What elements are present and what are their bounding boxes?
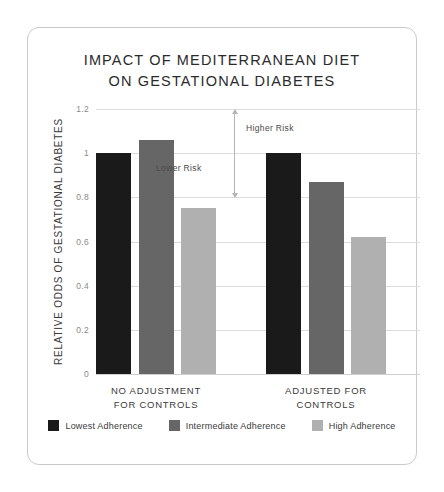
x-axis-label-group-2-line-2: CONTROLS bbox=[236, 398, 416, 412]
bar-group2-intermediate-adherence[interactable] bbox=[309, 182, 344, 374]
chart-card: IMPACT OF MEDITERRANEAN DIET ON GESTATIO… bbox=[27, 27, 417, 465]
bar-group1-lowest-adherence[interactable] bbox=[96, 153, 131, 374]
lower-risk-line bbox=[234, 153, 235, 193]
y-axis-title: RELATIVE ODDS OF GESTATIONAL DIABETES bbox=[50, 109, 66, 374]
chart-title-line-1: IMPACT OF MEDITERRANEAN DIET bbox=[28, 50, 416, 71]
y-tick-label-0.4: 0.4 bbox=[76, 281, 89, 291]
y-tick-label-1: 1 bbox=[84, 148, 89, 158]
gridline-1.2: 1.2 bbox=[96, 109, 420, 110]
bar-group1-intermediate-adherence[interactable] bbox=[139, 140, 174, 374]
legend-item-high-adherence[interactable]: High Adherence bbox=[312, 420, 396, 431]
x-axis-label-group-2-line-1: ADJUSTED FOR bbox=[236, 384, 416, 398]
bar-group2-lowest-adherence[interactable] bbox=[266, 153, 301, 374]
x-axis-label-group-1-line-1: NO ADJUSTMENT bbox=[66, 384, 246, 398]
bar-group1-high-adherence[interactable] bbox=[181, 208, 216, 374]
higher-risk-arrow-icon bbox=[232, 109, 238, 114]
legend-item-lowest-adherence[interactable]: Lowest Adherence bbox=[48, 420, 142, 431]
legend-label-high-adherence: High Adherence bbox=[329, 421, 396, 431]
bar-group2-high-adherence[interactable] bbox=[351, 237, 386, 374]
x-axis-label-group-2: ADJUSTED FOR CONTROLS bbox=[236, 384, 416, 411]
legend-label-intermediate-adherence: Intermediate Adherence bbox=[186, 421, 286, 431]
legend: Lowest Adherence Intermediate Adherence … bbox=[28, 420, 416, 431]
y-tick-label-0: 0 bbox=[84, 369, 89, 379]
y-tick-label-1.2: 1.2 bbox=[76, 104, 89, 114]
x-axis-label-group-1-line-2: FOR CONTROLS bbox=[66, 398, 246, 412]
y-tick-label-0.6: 0.6 bbox=[76, 237, 89, 247]
y-tick-label-0.8: 0.8 bbox=[76, 192, 89, 202]
x-axis-label-group-1: NO ADJUSTMENT FOR CONTROLS bbox=[66, 384, 246, 411]
legend-swatch-intermediate-adherence bbox=[169, 420, 180, 431]
higher-risk-line bbox=[234, 113, 235, 153]
legend-swatch-lowest-adherence bbox=[48, 420, 59, 431]
legend-swatch-high-adherence bbox=[312, 420, 323, 431]
higher-risk-label: Higher Risk bbox=[246, 123, 294, 133]
legend-item-intermediate-adherence[interactable]: Intermediate Adherence bbox=[169, 420, 286, 431]
gridline-0: 0 bbox=[96, 374, 420, 375]
lower-risk-label: Lower Risk bbox=[156, 163, 202, 173]
page-title: IMPACT OF MEDITERRANEAN DIET ON GESTATIO… bbox=[28, 50, 416, 92]
legend-label-lowest-adherence: Lowest Adherence bbox=[65, 421, 142, 431]
plot-area: 1.2 1 0.8 0.6 0.4 0.2 0 Higher Risk bbox=[96, 109, 420, 374]
lower-risk-arrow-icon bbox=[232, 193, 238, 198]
chart-title-line-2: ON GESTATIONAL DIABETES bbox=[28, 71, 416, 92]
y-axis-title-text: RELATIVE ODDS OF GESTATIONAL DIABETES bbox=[53, 118, 64, 365]
y-tick-label-0.2: 0.2 bbox=[76, 325, 89, 335]
